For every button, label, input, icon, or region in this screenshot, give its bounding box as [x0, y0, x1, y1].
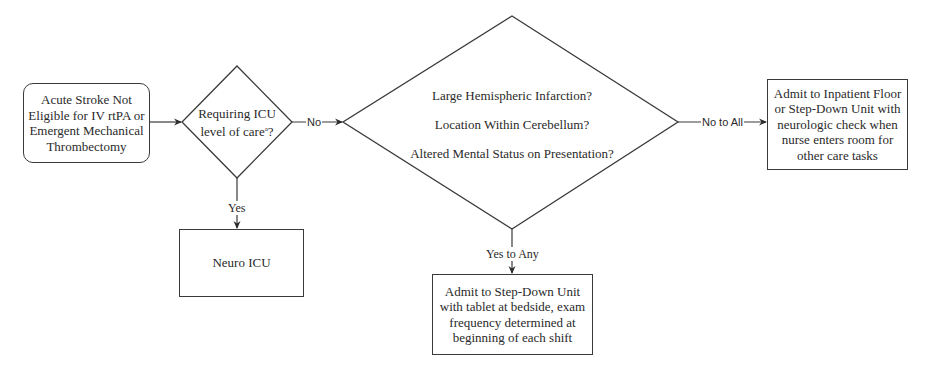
- edge-label-yes: Yes: [228, 201, 245, 215]
- outcome-floor-line: or Step-Down Unit with: [774, 101, 901, 117]
- outcome-stepdown-line: beginning of each shift: [440, 330, 585, 346]
- outcome-floor-line: nurse enters room for: [774, 132, 901, 148]
- start-line: Eligible for IV rtPA or: [28, 108, 144, 124]
- outcome-floor-line: neurologic check when: [774, 117, 901, 133]
- outcome-stepdown-line: with tablet at bedside, exam: [440, 299, 585, 315]
- criteria-question-altered-mental-status: Altered Mental Status on Presentation?: [380, 146, 644, 162]
- outcome-stepdown-line: frequency determined at: [440, 315, 585, 331]
- neuro-icu-label: Neuro ICU: [212, 255, 270, 271]
- criteria-question-large-hemispheric: Large Hemispheric Infarction?: [380, 88, 644, 104]
- decision-icu-line2: level of carea?: [190, 122, 284, 140]
- edge-label-yes-to-any: Yes to Any: [486, 247, 539, 261]
- start-line: Thrombectomy: [28, 139, 144, 155]
- outcome-step-down-unit: Admit to Step-Down Unit with tablet at b…: [432, 274, 593, 355]
- outcome-stepdown-line: Admit to Step-Down Unit: [440, 284, 585, 300]
- outcome-inpatient-floor: Admit to Inpatient Floor or Step-Down Un…: [767, 79, 908, 170]
- decision-icu-line2-text: level of care: [200, 124, 264, 139]
- outcome-floor-line: other care tasks: [774, 148, 901, 164]
- criteria-question-cerebellum: Location Within Cerebellum?: [380, 117, 644, 133]
- edge-label-no: No: [306, 116, 322, 128]
- decision-icu-text: Requiring ICU level of carea?: [190, 106, 284, 139]
- start-line: Emergent Mechanical: [28, 123, 144, 139]
- decision-icu-line1: Requiring ICU: [190, 106, 284, 122]
- decision-icu-qmark: ?: [268, 124, 274, 139]
- start-line: Acute Stroke Not: [28, 92, 144, 108]
- start-node-acute-stroke: Acute Stroke Not Eligible for IV rtPA or…: [23, 83, 150, 163]
- outcome-floor-line: Admit to Inpatient Floor: [774, 86, 901, 102]
- outcome-neuro-icu: Neuro ICU: [179, 229, 304, 297]
- edge-label-no-to-all: No to All: [701, 116, 744, 128]
